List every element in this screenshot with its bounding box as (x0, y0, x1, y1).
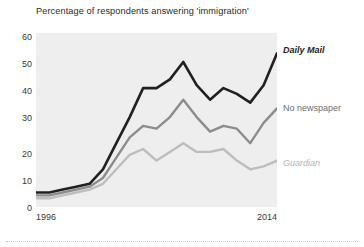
y-axis-tick-labels: 60 50 40 30 20 10 0 (4, 0, 32, 247)
plot-area (36, 33, 277, 207)
series-label-no-newspaper: No newspaper (283, 103, 341, 114)
footer-divider (6, 241, 358, 242)
series-lines-svg (36, 33, 277, 207)
series-label-daily-mail: Daily Mail (283, 45, 325, 56)
y-tick-60: 60 (6, 32, 32, 42)
y-tick-40: 40 (6, 86, 32, 96)
chart-title: Percentage of respondents answering 'imm… (36, 5, 249, 17)
y-tick-50: 50 (6, 59, 32, 69)
x-tick-1996: 1996 (36, 212, 56, 222)
y-tick-10: 10 (6, 176, 32, 186)
series-line-daily-mail (36, 53, 277, 192)
y-tick-30: 30 (6, 113, 32, 123)
series-line-no-newspaper (36, 100, 277, 196)
x-tick-2014: 2014 (257, 212, 277, 222)
series-label-guardian: Guardian (283, 158, 320, 169)
y-tick-20: 20 (6, 149, 32, 159)
y-tick-0: 0 (6, 203, 32, 213)
chart-container: Percentage of respondents answering 'imm… (0, 0, 364, 247)
